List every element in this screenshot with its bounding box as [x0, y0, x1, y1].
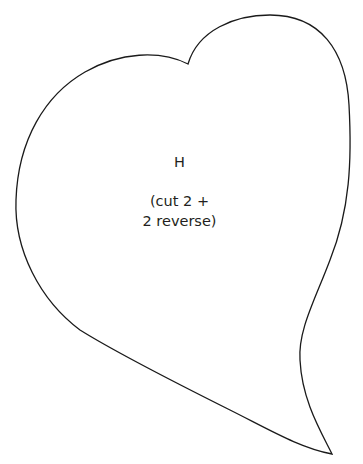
piece-letter: H — [0, 152, 361, 172]
cut-instructions-line2: 2 reverse) — [0, 211, 361, 231]
cut-instructions: (cut 2 + 2 reverse) — [0, 191, 361, 231]
pattern-outline — [16, 15, 350, 454]
cut-instructions-line1: (cut 2 + — [0, 191, 361, 211]
pattern-piece-shape — [0, 0, 363, 464]
